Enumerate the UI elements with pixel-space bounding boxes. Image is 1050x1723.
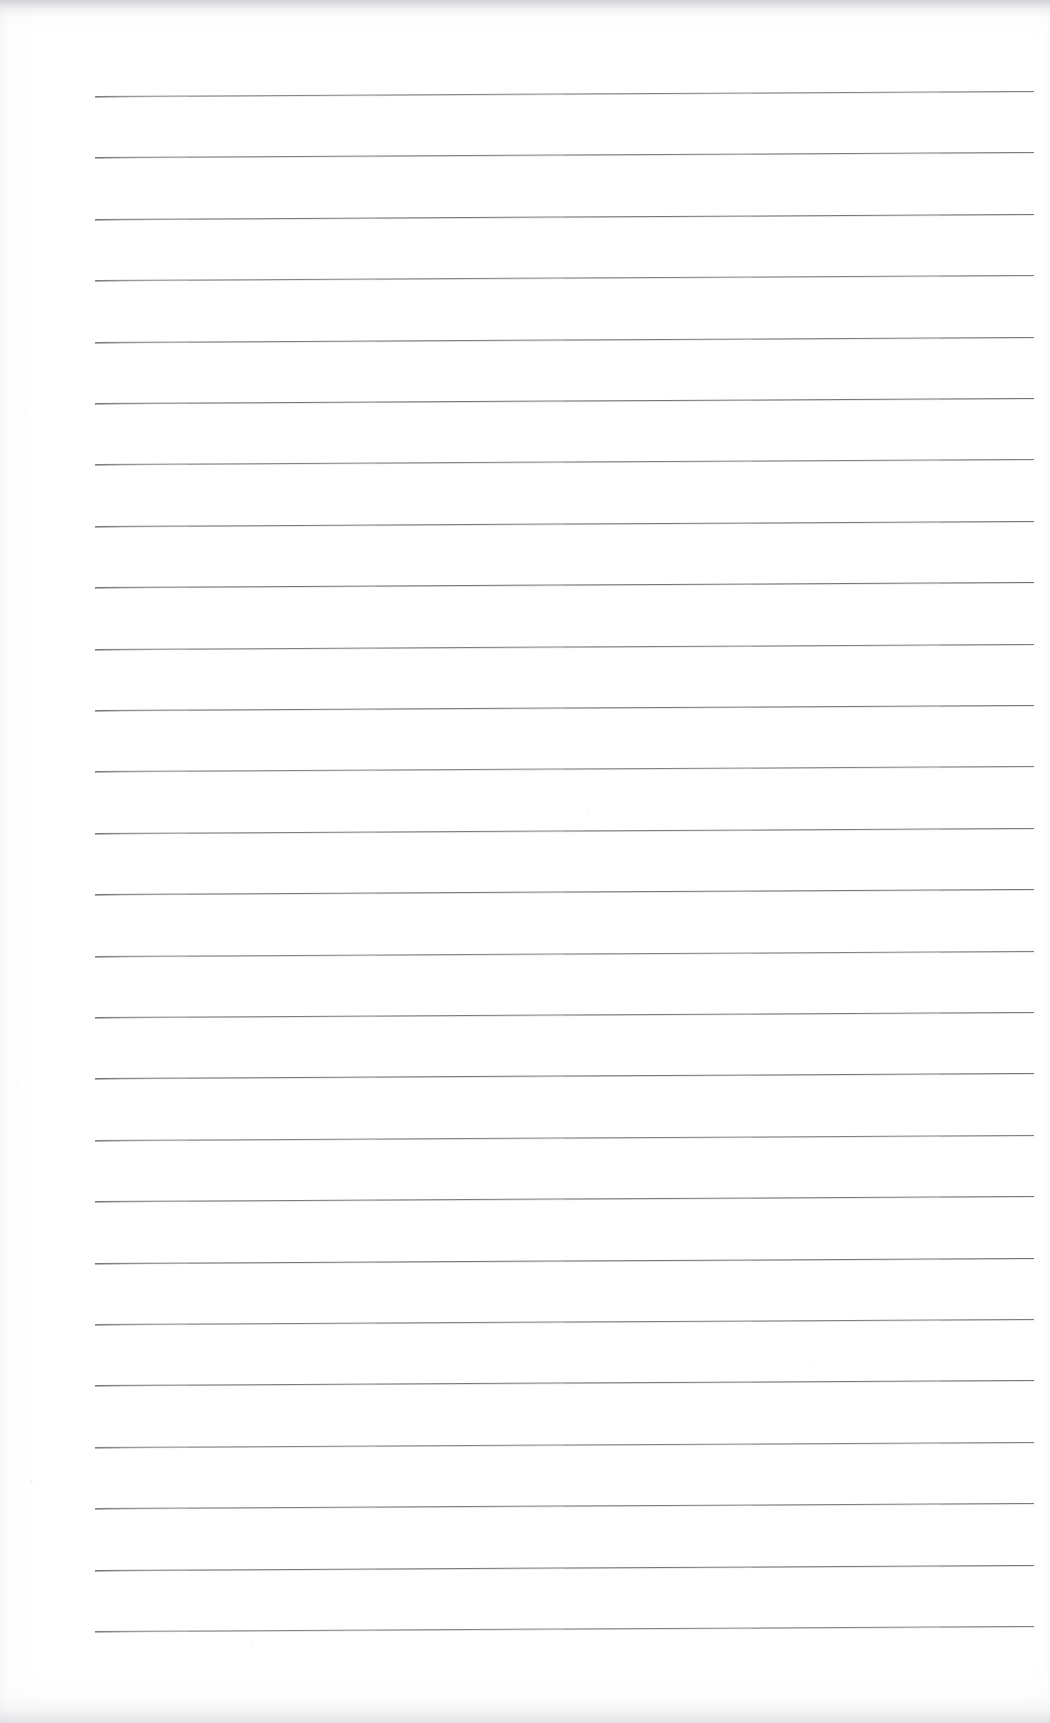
scanned-page — [0, 0, 1050, 1723]
writing-area[interactable] — [95, 96, 1034, 1631]
